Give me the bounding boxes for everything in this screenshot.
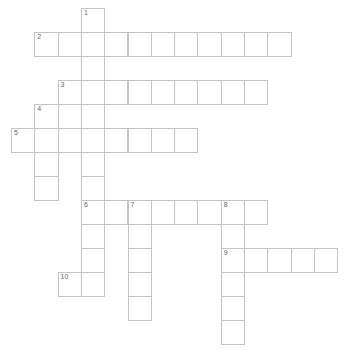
crossword-cell[interactable] [221, 296, 245, 321]
crossword-cell[interactable] [128, 224, 152, 249]
crossword-cell[interactable]: 7 [128, 200, 152, 225]
crossword-cell[interactable] [174, 128, 198, 153]
crossword-cell[interactable]: 10 [58, 272, 82, 297]
crossword-cell[interactable] [34, 152, 58, 177]
crossword-cell[interactable] [34, 128, 58, 153]
crossword-cell[interactable] [104, 80, 128, 105]
clue-number: 10 [61, 273, 69, 281]
crossword-cell[interactable] [221, 224, 245, 249]
clue-number: 9 [224, 249, 228, 257]
crossword-cell[interactable] [58, 128, 82, 153]
crossword-cell[interactable] [174, 200, 198, 225]
crossword-cell[interactable] [128, 32, 152, 57]
crossword-cell[interactable] [81, 128, 105, 153]
crossword-cell[interactable] [81, 152, 105, 177]
crossword-cell[interactable] [81, 80, 105, 105]
clue-number: 2 [37, 33, 41, 41]
clue-number: 3 [61, 81, 65, 89]
crossword-cell[interactable] [58, 32, 82, 57]
crossword-cell[interactable]: 3 [58, 80, 82, 105]
crossword-cell[interactable] [221, 320, 245, 345]
crossword-cell[interactable] [104, 128, 128, 153]
crossword-cell[interactable] [221, 80, 245, 105]
crossword-cell[interactable] [81, 224, 105, 249]
crossword-cell[interactable] [244, 200, 268, 225]
clue-number: 4 [37, 105, 41, 113]
crossword-cell[interactable] [128, 272, 152, 297]
crossword-cell[interactable] [244, 80, 268, 105]
crossword-cell[interactable]: 6 [81, 200, 105, 225]
crossword-cell[interactable] [151, 80, 175, 105]
crossword-cell[interactable] [81, 176, 105, 201]
crossword-cell[interactable] [151, 128, 175, 153]
crossword-cell[interactable] [151, 32, 175, 57]
crossword-cell[interactable]: 9 [221, 248, 245, 273]
crossword-cell[interactable] [197, 32, 221, 57]
crossword-cell[interactable] [81, 272, 105, 297]
crossword-grid: 16234578910 [0, 0, 344, 354]
crossword-cell[interactable] [291, 248, 315, 273]
crossword-cell[interactable] [244, 248, 268, 273]
crossword-cell[interactable]: 4 [34, 104, 58, 129]
crossword-cell[interactable] [197, 200, 221, 225]
crossword-cell[interactable] [221, 32, 245, 57]
clue-number: 8 [224, 201, 228, 209]
crossword-cell[interactable] [128, 296, 152, 321]
crossword-cell[interactable] [267, 32, 291, 57]
crossword-cell[interactable] [174, 80, 198, 105]
crossword-cell[interactable] [244, 32, 268, 57]
crossword-cell[interactable]: 1 [81, 8, 105, 33]
crossword-cell[interactable] [104, 200, 128, 225]
clue-number: 6 [84, 201, 88, 209]
crossword-cell[interactable] [34, 176, 58, 201]
crossword-cell[interactable]: 5 [11, 128, 35, 153]
crossword-cell[interactable] [221, 272, 245, 297]
crossword-cell[interactable] [128, 80, 152, 105]
crossword-cell[interactable]: 2 [34, 32, 58, 57]
crossword-cell[interactable] [174, 32, 198, 57]
crossword-cell[interactable]: 8 [221, 200, 245, 225]
crossword-cell[interactable] [314, 248, 338, 273]
crossword-cell[interactable] [104, 32, 128, 57]
clue-number: 1 [84, 9, 88, 17]
crossword-cell[interactable] [81, 248, 105, 273]
clue-number: 5 [14, 129, 18, 137]
clue-number: 7 [131, 201, 135, 209]
crossword-cell[interactable] [197, 80, 221, 105]
crossword-cell[interactable] [81, 56, 105, 81]
crossword-cell[interactable] [81, 32, 105, 57]
crossword-cell[interactable] [151, 200, 175, 225]
crossword-cell[interactable] [267, 248, 291, 273]
crossword-cell[interactable] [128, 248, 152, 273]
crossword-cell[interactable] [81, 104, 105, 129]
crossword-cell[interactable] [128, 128, 152, 153]
